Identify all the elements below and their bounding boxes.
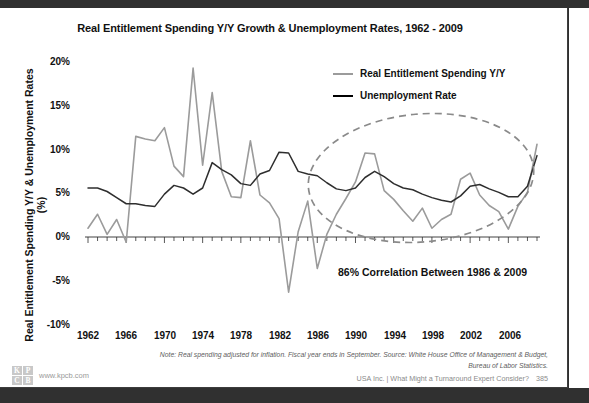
- screenshot-root: Real Entitlement Spending Y/Y Growth & U…: [0, 0, 589, 403]
- right-gutter: [569, 8, 589, 388]
- slide-canvas: Real Entitlement Spending Y/Y Growth & U…: [0, 8, 568, 388]
- kpcb-url-label: www.kpcb.com: [39, 371, 89, 380]
- kpcb-logo-mark-icon: K P C B: [12, 366, 33, 385]
- logo-cell-k: K: [12, 366, 22, 375]
- legend-item-unemployment-rate: Unemployment Rate: [333, 90, 548, 101]
- kpcb-logo: K P C B www.kpcb.com: [12, 366, 89, 385]
- bottom-letterbox-band: [0, 388, 589, 403]
- legend-swatch-icon: [333, 73, 353, 75]
- plot-area: [0, 8, 568, 388]
- footer-deck-title: USA Inc. | What Might a Turnaround Exper…: [357, 374, 529, 383]
- page-number: 385: [536, 374, 548, 383]
- logo-cell-p: P: [23, 366, 33, 375]
- logo-cell-c: C: [12, 376, 22, 385]
- correlation-highlight-ellipse: [303, 104, 539, 251]
- legend-swatch-icon: [333, 95, 353, 97]
- correlation-annotation-text: 86% Correlation Between 1986 & 2009: [338, 266, 527, 278]
- top-letterbox-band: [0, 0, 589, 8]
- logo-cell-b: B: [23, 376, 33, 385]
- legend-label: Unemployment Rate: [360, 90, 457, 101]
- legend-item-real-entitlement-spending: Real Entitlement Spending Y/Y: [333, 68, 548, 79]
- chart-legend: Real Entitlement Spending Y/Y Unemployme…: [333, 68, 548, 112]
- series-line-unemployment-rate: [88, 152, 537, 206]
- slide-footer: USA Inc. | What Might a Turnaround Exper…: [300, 374, 548, 383]
- legend-label: Real Entitlement Spending Y/Y: [360, 68, 505, 79]
- chart-note: Note: Real spending adjusted for inflati…: [156, 350, 548, 371]
